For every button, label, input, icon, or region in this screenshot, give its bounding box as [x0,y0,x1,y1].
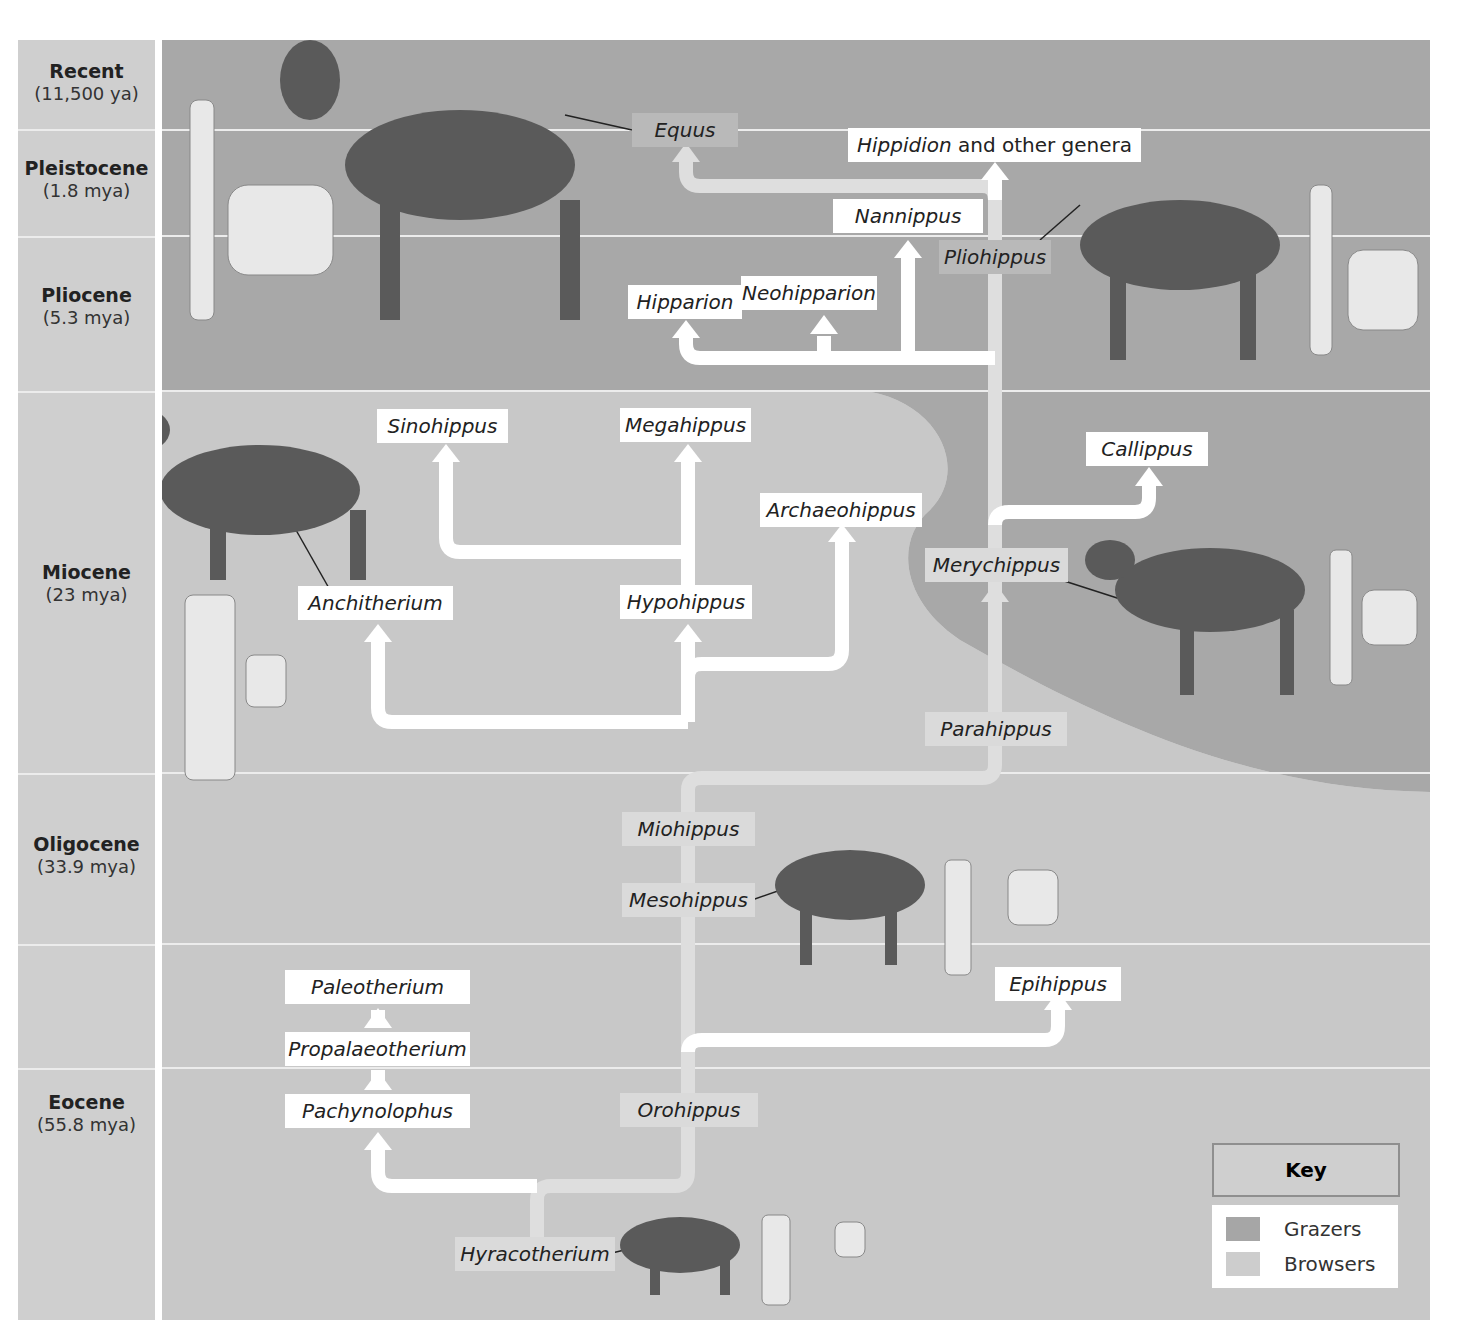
era-date: (5.3 mya) [18,307,155,329]
label-anchitherium: Anchitherium [298,586,453,620]
label-hipparion: Hipparion [628,285,742,319]
label-paleotherium: Paleotherium [285,970,470,1004]
legend-label: Grazers [1284,1217,1361,1241]
label-epihippus: Epihippus [995,967,1121,1001]
era-divider [18,773,155,775]
era-divider [18,236,155,238]
era-date: (33.9 mya) [18,856,155,878]
grazers-swatch [1226,1217,1260,1241]
label-archaeohippus: Archaeohippus [760,493,922,527]
browsers-swatch [1226,1252,1260,1276]
era-name: Pliocene [18,284,155,307]
label-hippidion: Hippidion and other genera [848,128,1141,162]
label-pliohippus: Pliohippus [939,240,1051,274]
label-propalaeotherium: Propalaeotherium [285,1032,470,1066]
phylogeny-panel [162,40,1430,1320]
era-divider [18,1068,155,1070]
era-name: Oligocene [18,833,155,856]
label-equus: Equus [632,113,738,147]
label-miohippus: Miohippus [622,812,755,846]
label-merychippus: Merychippus [925,548,1068,582]
background-regions [162,40,1430,1320]
label-hypohippus: Hypohippus [620,585,752,619]
era-name: Recent [18,60,155,83]
legend-title: Key [1212,1143,1400,1197]
era-pliocene: Pliocene (5.3 mya) [18,284,155,329]
era-date: (55.8 mya) [18,1114,155,1136]
time-scale-column: Recent (11,500 ya) Pleistocene (1.8 mya)… [18,40,155,1320]
era-name: Eocene [18,1091,155,1114]
era-name: Pleistocene [18,157,155,180]
label-orohippus: Orohippus [620,1093,758,1127]
label-hippidion-genus: Hippidion [857,133,952,157]
label-parahippus: Parahippus [925,712,1067,746]
label-hyracotherium: Hyracotherium [455,1237,615,1271]
era-name: Miocene [18,561,155,584]
era-divider [18,129,155,131]
label-neohipparion: Neohipparion [741,276,877,310]
label-callippus: Callippus [1086,432,1208,466]
label-hippidion-rest: and other genera [952,133,1132,157]
era-divider [18,944,155,946]
label-sinohippus: Sinohippus [377,409,508,443]
era-pleistocene: Pleistocene (1.8 mya) [18,157,155,202]
label-nannippus: Nannippus [833,199,983,233]
label-pachynolophus: Pachynolophus [285,1094,470,1128]
era-oligocene: Oligocene (33.9 mya) [18,833,155,878]
label-megahippus: Megahippus [620,408,751,442]
era-miocene: Miocene (23 mya) [18,561,155,606]
era-date: (11,500 ya) [18,83,155,105]
era-eocene: Eocene (55.8 mya) [18,1091,155,1136]
label-mesohippus: Mesohippus [622,883,755,917]
era-date: (23 mya) [18,584,155,606]
legend: Grazers Browsers [1212,1205,1398,1288]
era-divider [18,391,155,393]
era-date: (1.8 mya) [18,180,155,202]
legend-label: Browsers [1284,1252,1375,1276]
era-recent: Recent (11,500 ya) [18,60,155,105]
